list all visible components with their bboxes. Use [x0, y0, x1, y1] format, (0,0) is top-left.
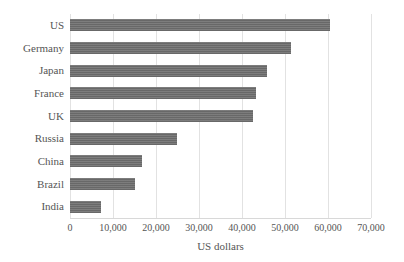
- x-axis-title: US dollars: [70, 240, 371, 252]
- x-tick-label: 30,000: [185, 222, 213, 233]
- bar-row: [70, 105, 371, 128]
- x-tick-label: 50,000: [271, 222, 299, 233]
- category-label-china: China: [0, 150, 64, 173]
- bar-chart: USGermanyJapanFranceUKRussiaChinaBrazilI…: [0, 0, 404, 262]
- bar: [70, 19, 330, 31]
- category-label-germany: Germany: [0, 37, 64, 60]
- x-tick-label: 10,000: [99, 222, 127, 233]
- x-tick-label: 60,000: [314, 222, 342, 233]
- category-label-brazil: Brazil: [0, 173, 64, 196]
- bar: [70, 65, 267, 77]
- category-label-uk: UK: [0, 105, 64, 128]
- bar: [70, 201, 101, 213]
- bar: [70, 42, 291, 54]
- x-axis-line: [70, 218, 371, 219]
- category-label-france: France: [0, 82, 64, 105]
- plot-area: [70, 14, 371, 218]
- bar-row: [70, 14, 371, 37]
- bar-row: [70, 37, 371, 60]
- x-tick-label: 0: [68, 222, 73, 233]
- x-tick-label: 70,000: [357, 222, 385, 233]
- category-label-russia: Russia: [0, 127, 64, 150]
- bar-row: [70, 127, 371, 150]
- bar-row: [70, 195, 371, 218]
- bar-row: [70, 173, 371, 196]
- category-label-us: US: [0, 14, 64, 37]
- category-label-india: India: [0, 195, 64, 218]
- bar: [70, 110, 253, 122]
- gridline: [371, 14, 372, 218]
- bar: [70, 178, 135, 190]
- bar-row: [70, 59, 371, 82]
- bar: [70, 133, 177, 145]
- bar: [70, 87, 256, 99]
- bar: [70, 155, 142, 167]
- bar-row: [70, 150, 371, 173]
- bar-row: [70, 82, 371, 105]
- x-tick-label: 20,000: [142, 222, 170, 233]
- x-tick-label: 40,000: [228, 222, 256, 233]
- category-label-japan: Japan: [0, 59, 64, 82]
